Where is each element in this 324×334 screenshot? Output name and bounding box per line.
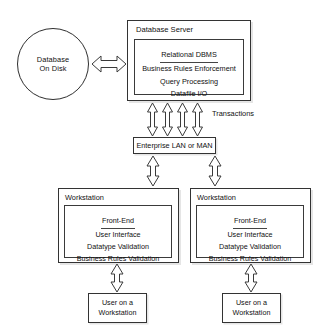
workstation-right-line-datatype-validation: Datatype Validation <box>197 241 303 253</box>
workstation-right-front-end-box: Front-End User Interface Datatype Valida… <box>196 205 304 258</box>
enterprise-lan-node: Enterprise LAN or MAN <box>133 137 216 154</box>
arrow-disk-to-server <box>92 56 126 72</box>
workstation-right-front-end-heading-wrap: Front-End <box>197 209 303 229</box>
arrow-server-to-lan-1 <box>148 103 158 136</box>
user-right-line1: User on a <box>236 298 267 309</box>
database-server-title: Database Server <box>136 26 193 35</box>
workstation-right-front-end-heading: Front-End <box>233 215 267 229</box>
arrow-lan-to-workstation-left <box>147 156 159 186</box>
database-on-disk-line1: Database <box>37 55 69 64</box>
arrow-server-to-lan-3 <box>178 103 188 136</box>
arrow-lan-to-workstation-right <box>209 156 221 186</box>
workstation-left-line-business-rules-validation: Business Rules Validation <box>65 253 171 265</box>
user-left-line1: User on a <box>102 298 133 309</box>
relational-dbms-heading-wrap: Relational DBMS <box>135 43 243 63</box>
workstation-left-front-end-box: Front-End User Interface Datatype Valida… <box>64 205 172 258</box>
workstation-left-front-end-heading: Front-End <box>101 215 135 229</box>
user-left-line2: Workstation <box>99 308 137 319</box>
workstation-right-line-user-interface: User Interface <box>197 229 303 241</box>
workstation-left-line-user-interface: User Interface <box>65 229 171 241</box>
dbms-line-query-processing: Query Processing <box>135 76 243 89</box>
relational-dbms-heading: Relational DBMS <box>160 49 218 63</box>
relational-dbms-box: Relational DBMS Business Rules Enforceme… <box>134 39 244 95</box>
user-right-line2: Workstation <box>233 308 271 319</box>
transactions-label: Transactions <box>212 110 254 119</box>
workstation-left-title: Workstation <box>65 194 104 203</box>
workstation-left-front-end-heading-wrap: Front-End <box>65 209 171 229</box>
arrow-server-to-lan-2 <box>163 103 173 136</box>
enterprise-lan-label: Enterprise LAN or MAN <box>136 141 212 150</box>
dbms-line-datafile-io: Datafile I/O <box>135 88 243 101</box>
database-on-disk-line2: On Disk <box>40 64 67 73</box>
arrow-workstation-left-to-user <box>111 264 123 292</box>
workstation-right-title: Workstation <box>197 194 236 203</box>
workstation-left-line-datatype-validation: Datatype Validation <box>65 241 171 253</box>
architecture-diagram: Database On Disk Database Server Relatio… <box>0 0 324 334</box>
arrow-workstation-right-to-user <box>245 264 257 292</box>
user-on-workstation-left-node: User on a Workstation <box>88 293 147 323</box>
database-on-disk-node: Database On Disk <box>17 28 89 100</box>
dbms-line-business-rules-enforcement: Business Rules Enforcement <box>135 63 243 76</box>
arrow-server-to-lan-4 <box>193 103 203 136</box>
user-on-workstation-right-node: User on a Workstation <box>222 293 281 323</box>
workstation-right-line-business-rules-validation: Business Rules Validation <box>197 253 303 265</box>
